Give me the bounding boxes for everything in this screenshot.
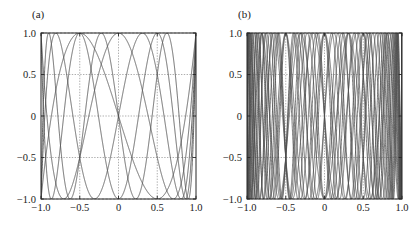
panel-a-plot: −1.0−0.500.51.0−1.0−0.500.51.0 [0, 0, 208, 233]
panel-b-plot: −1.0−0.500.51.0−1.0−0.500.51.0 [208, 0, 416, 233]
x-tick-label: −0.5 [70, 202, 89, 213]
y-tick-label: 0 [237, 111, 242, 122]
y-tick-label: 0.5 [23, 69, 36, 80]
x-tick-label: 0.5 [357, 202, 370, 213]
y-tick-label: 0.5 [229, 69, 242, 80]
chebyshev-figure: (a) −1.0−0.500.51.0−1.0−0.500.51.0 (b) −… [0, 0, 416, 233]
x-tick-label: 1.0 [189, 202, 202, 213]
y-tick-label: −1.0 [223, 194, 242, 205]
x-tick-label: 0 [322, 202, 327, 213]
x-tick-label: 1.0 [395, 202, 408, 213]
y-tick-label: 1.0 [23, 28, 36, 39]
x-tick-label: 0 [116, 202, 121, 213]
panel-a: (a) −1.0−0.500.51.0−1.0−0.500.51.0 [0, 0, 208, 233]
x-tick-label: −0.5 [276, 202, 295, 213]
x-tick-label: 0.5 [151, 202, 164, 213]
y-tick-label: −1.0 [17, 194, 36, 205]
panel-b: (b) −1.0−0.500.51.0−1.0−0.500.51.0 [208, 0, 416, 233]
y-tick-label: −0.5 [223, 152, 242, 163]
y-tick-label: −0.5 [17, 152, 36, 163]
y-tick-label: 0 [31, 111, 36, 122]
y-tick-label: 1.0 [229, 28, 242, 39]
